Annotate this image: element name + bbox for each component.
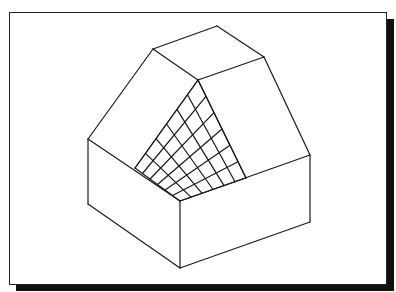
edge-line bbox=[88, 49, 153, 139]
edge-line bbox=[88, 204, 180, 268]
edge-line bbox=[198, 57, 264, 80]
edge-line bbox=[153, 26, 217, 49]
edge-line bbox=[264, 57, 310, 155]
block-edges bbox=[88, 26, 310, 268]
roof-face-grid bbox=[135, 80, 246, 201]
edge-line bbox=[217, 26, 264, 57]
edge-line bbox=[88, 139, 180, 201]
edge-line bbox=[180, 222, 310, 268]
isometric-block-drawing bbox=[0, 0, 396, 292]
grid-line bbox=[198, 80, 246, 178]
edge-line bbox=[153, 49, 198, 80]
